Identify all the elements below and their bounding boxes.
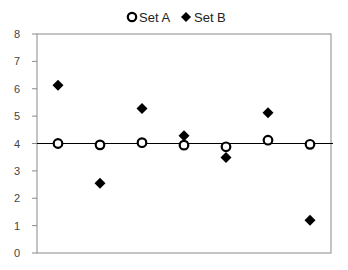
open-circle-icon — [128, 13, 136, 21]
data-point-set-a — [306, 140, 315, 149]
legend: Set A Set B — [128, 10, 226, 25]
legend-label-set-a: Set A — [139, 10, 170, 25]
y-tick-label: 0 — [14, 247, 20, 259]
legend-item-set-a: Set A — [128, 10, 171, 25]
data-point-set-a — [54, 139, 63, 148]
y-tick-label: 2 — [14, 192, 20, 204]
data-point-set-a — [96, 141, 105, 150]
y-tick-label: 3 — [14, 165, 20, 177]
y-tick-label: 7 — [14, 55, 20, 67]
data-point-set-a — [180, 141, 189, 150]
data-point-set-a — [138, 138, 147, 147]
data-point-set-b — [53, 80, 64, 91]
series-set-b — [53, 80, 316, 226]
data-point-set-b — [221, 152, 232, 163]
y-axis: 012345678 — [14, 28, 37, 259]
scatter-chart: Set A Set B 012345678 — [0, 0, 348, 270]
data-point-set-a — [222, 142, 231, 151]
y-tick-label: 8 — [14, 28, 20, 40]
data-point-set-b — [95, 178, 106, 189]
data-point-set-a — [264, 136, 273, 145]
data-point-set-b — [305, 215, 316, 226]
legend-item-set-b: Set B — [181, 10, 226, 25]
y-tick-label: 1 — [14, 220, 20, 232]
filled-diamond-icon — [181, 12, 191, 22]
data-point-set-b — [137, 103, 148, 114]
legend-label-set-b: Set B — [194, 10, 226, 25]
data-point-set-b — [263, 107, 274, 118]
data-point-set-b — [179, 130, 190, 141]
y-tick-label: 4 — [14, 138, 20, 150]
y-tick-label: 5 — [14, 110, 20, 122]
y-tick-label: 6 — [14, 83, 20, 95]
